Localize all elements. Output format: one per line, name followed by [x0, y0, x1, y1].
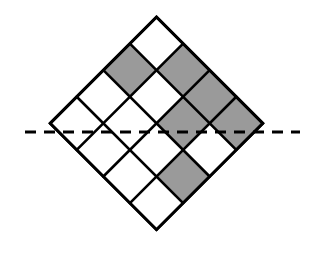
figure-root: [0, 0, 311, 263]
diamond-grid-diagram: [0, 0, 311, 263]
